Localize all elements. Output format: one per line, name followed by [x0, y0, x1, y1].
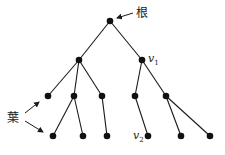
node-a3 — [99, 93, 106, 100]
node-a2 — [71, 93, 78, 100]
edge-root-v1 — [110, 21, 142, 60]
node-root — [107, 18, 114, 25]
node-a2l — [50, 133, 57, 140]
edges — [48, 21, 210, 136]
node-b2r — [207, 133, 214, 140]
node-a3c — [104, 133, 111, 140]
edge-a2-a2l — [53, 96, 74, 136]
node-v2 — [145, 133, 152, 140]
leaves-label: 葉 — [7, 111, 19, 125]
edge-b2-b2r — [166, 96, 210, 136]
node-b2 — [163, 93, 170, 100]
node-v1 — [139, 57, 146, 64]
root-arrow-icon — [117, 13, 133, 18]
leaves-arrow-lower-icon — [25, 121, 43, 132]
node-a — [76, 57, 83, 64]
edge-v1-b1 — [135, 60, 142, 96]
tree-diagram: 根 v1 v2 葉 — [0, 0, 225, 155]
node-b1 — [132, 93, 139, 100]
v1-label: v1 — [148, 52, 159, 67]
edge-root-a — [79, 21, 110, 60]
node-a2r — [80, 133, 87, 140]
node-b2l — [178, 133, 185, 140]
edge-a3-a3c — [102, 96, 107, 136]
nodes — [45, 18, 214, 140]
node-a1 — [45, 93, 52, 100]
root-label: 根 — [136, 6, 148, 20]
edge-a-a3 — [79, 60, 102, 96]
annotations: 根 v1 v2 葉 — [7, 6, 159, 144]
edge-b2-b2l — [166, 96, 181, 136]
leaves-arrow-upper-icon — [25, 102, 39, 113]
v2-label: v2 — [133, 129, 144, 144]
edge-a2-a2r — [74, 96, 83, 136]
